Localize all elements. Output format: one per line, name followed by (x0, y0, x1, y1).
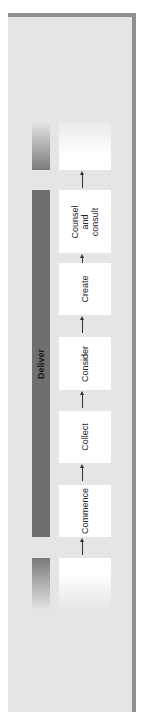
step-box-consider: Consider (59, 337, 111, 390)
step-box-commence: Commence (59, 485, 111, 537)
step-box-collect: Collect (59, 411, 111, 463)
arrow-up-icon (82, 319, 83, 333)
arrow-up-icon (82, 541, 83, 555)
phase-label: Deliver (36, 349, 46, 379)
arrow-up-icon (82, 174, 83, 188)
step-box-fade-top (59, 122, 111, 170)
step-label: Collect (80, 423, 90, 451)
step-label: Counsel and consult (70, 205, 100, 238)
step-label: Consider (80, 345, 90, 381)
phase-bar-fade-bottom (32, 558, 50, 610)
arrow-up-icon (82, 467, 83, 481)
step-box-counsel-and-consult: Counsel and consult (59, 190, 111, 253)
step-box-fade-bottom (59, 558, 111, 610)
step-label: Create (80, 275, 90, 302)
arrow-up-icon (82, 394, 83, 408)
step-label: Commence (80, 488, 90, 534)
step-box-create: Create (59, 263, 111, 315)
phase-bar-fade-top (32, 122, 50, 170)
